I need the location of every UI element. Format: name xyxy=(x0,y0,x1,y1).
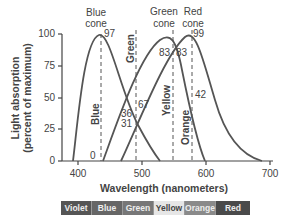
spectrum-yellow: Yellow xyxy=(154,201,185,215)
x-axis-label: Wavelength (nanometers) xyxy=(100,182,228,194)
spectrum-bar: Violet Blue Green Yellow Orange Red xyxy=(61,201,250,215)
orange-line-label: Orange xyxy=(180,110,191,145)
value-83-green: 83 xyxy=(159,47,171,58)
value-83-red: 83 xyxy=(176,47,188,58)
value-42: 42 xyxy=(195,89,207,100)
y-axis xyxy=(58,34,62,161)
spectrum-red: Red xyxy=(216,201,250,215)
y-tick-75: 75 xyxy=(44,60,56,71)
x-tick-400: 400 xyxy=(70,168,87,179)
chart-canvas: 100 75 50 25 0 400 500 600 700 Wavelengt… xyxy=(0,0,285,221)
value-31: 31 xyxy=(121,118,133,129)
y-tick-100: 100 xyxy=(38,28,55,39)
blue-cone-label: Blue xyxy=(86,7,106,18)
x-tick-700: 700 xyxy=(262,168,279,179)
green-line-label: Green xyxy=(125,34,136,63)
y-tick-25: 25 xyxy=(44,123,56,134)
spectrum-blue: Blue xyxy=(92,201,123,215)
y-axis-label-line2: (percent of maximum) xyxy=(21,43,33,153)
green-cone-label-2: cone xyxy=(153,18,175,29)
yellow-line-label: Yellow xyxy=(161,85,172,116)
value-0: 0 xyxy=(90,150,96,161)
value-67: 67 xyxy=(138,99,150,110)
spectrum-violet: Violet xyxy=(61,201,92,215)
y-tick-0: 0 xyxy=(49,155,55,166)
x-tick-500: 500 xyxy=(134,168,151,179)
spectrum-orange: Orange xyxy=(185,201,216,215)
y-axis-label-line1: Light absorption xyxy=(9,57,21,140)
y-tick-50: 50 xyxy=(44,92,56,103)
value-99: 99 xyxy=(193,28,205,39)
x-tick-600: 600 xyxy=(198,168,215,179)
blue-cone-curve xyxy=(73,35,160,161)
blue-line-label: Blue xyxy=(90,103,101,125)
spectrum-green: Green xyxy=(123,201,154,215)
red-cone-label: Red xyxy=(184,6,202,17)
green-cone-label: Green xyxy=(150,6,178,17)
value-97: 97 xyxy=(104,28,116,39)
x-axis xyxy=(62,161,273,165)
